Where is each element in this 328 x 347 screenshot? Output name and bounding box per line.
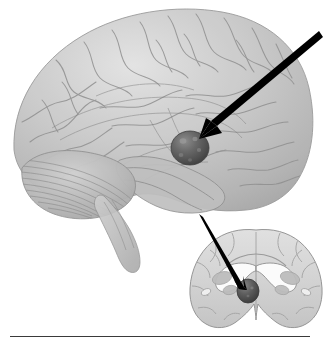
coronal-section-panel <box>190 230 322 328</box>
brain-figure: Lateral view of a semi-transparent human… <box>0 0 328 347</box>
caption-divider-rule <box>10 336 310 337</box>
brain-illustration-canvas: Lateral view of a semi-transparent human… <box>0 0 328 347</box>
